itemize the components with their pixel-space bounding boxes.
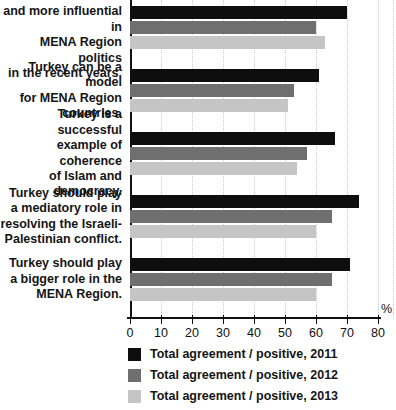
- bar-group-4: Turkey should play a mediatory role in r…: [0, 195, 396, 238]
- x-tick-10: [161, 315, 162, 324]
- x-tick-label-50: 50: [273, 326, 297, 340]
- bar-set-2: [130, 69, 396, 112]
- legend-item-2012: Total agreement / positive, 2012: [128, 368, 338, 382]
- x-tick-0: [130, 315, 131, 324]
- category-label-1: Turkey has become more and more influent…: [0, 6, 130, 49]
- legend-label-2012: Total agreement / positive, 2012: [150, 368, 338, 382]
- x-tick-50: [285, 315, 286, 324]
- legend-swatch-2012: [128, 369, 141, 382]
- legend-swatch-2013: [128, 390, 141, 403]
- bar-set-1: [130, 6, 396, 49]
- bar-group-1: Turkey has become more and more influent…: [0, 6, 396, 49]
- legend-swatch-2011: [128, 348, 141, 361]
- bar-group-3: Turkey is a successful example of cohere…: [0, 132, 396, 175]
- bar-group-5: Turkey should play a bigger role in the …: [0, 258, 396, 301]
- bar-2011-group-2: [130, 69, 319, 82]
- category-label-5: Turkey should play a bigger role in the …: [0, 258, 130, 301]
- bar-2013-group-2: [130, 99, 288, 112]
- bar-2012-group-4: [130, 210, 332, 223]
- bar-set-5: [130, 258, 396, 301]
- category-label-3: Turkey is a successful example of cohere…: [0, 132, 130, 175]
- legend-label-2013: Total agreement / positive, 2013: [150, 389, 338, 403]
- legend: Total agreement / positive, 2011Total ag…: [128, 347, 338, 410]
- bar-2011-group-3: [130, 132, 335, 145]
- x-tick-60: [316, 315, 317, 324]
- bar-2013-group-5: [130, 288, 316, 301]
- bar-2013-group-4: [130, 225, 316, 238]
- x-tick-40: [254, 315, 255, 324]
- category-label-2: Turkey can be a model for MENA Region co…: [0, 69, 130, 112]
- bar-2011-group-1: [130, 6, 347, 19]
- x-tick-label-80: 80: [366, 326, 390, 340]
- legend-label-2011: Total agreement / positive, 2011: [150, 347, 337, 361]
- bar-chart: Turkey has become more and more influent…: [0, 0, 396, 410]
- bar-2011-group-5: [130, 258, 350, 271]
- x-tick-70: [347, 315, 348, 324]
- x-tick-label-20: 20: [180, 326, 204, 340]
- bar-2012-group-5: [130, 273, 332, 286]
- bar-2011-group-4: [130, 195, 359, 208]
- bar-set-4: [130, 195, 396, 238]
- x-axis-unit-label: %: [381, 302, 392, 316]
- bar-2013-group-3: [130, 162, 297, 175]
- legend-item-2013: Total agreement / positive, 2013: [128, 389, 338, 403]
- x-tick-80: [378, 315, 379, 324]
- x-tick-label-30: 30: [211, 326, 235, 340]
- bar-group-2: Turkey can be a model for MENA Region co…: [0, 69, 396, 112]
- bar-2012-group-3: [130, 147, 307, 160]
- bar-2013-group-1: [130, 36, 325, 49]
- legend-item-2011: Total agreement / positive, 2011: [128, 347, 338, 361]
- x-tick-20: [192, 315, 193, 324]
- category-label-4: Turkey should play a mediatory role in r…: [0, 195, 130, 238]
- x-tick-label-0: 0: [118, 326, 142, 340]
- x-tick-30: [223, 315, 224, 324]
- bar-2012-group-1: [130, 21, 316, 34]
- x-tick-label-40: 40: [242, 326, 266, 340]
- x-tick-label-10: 10: [149, 326, 173, 340]
- bar-2012-group-2: [130, 84, 294, 97]
- x-tick-label-70: 70: [335, 326, 359, 340]
- x-tick-label-60: 60: [304, 326, 328, 340]
- bar-set-3: [130, 132, 396, 175]
- x-axis: 01020304050607080: [127, 317, 381, 319]
- bar-groups: Turkey has become more and more influent…: [0, 6, 396, 321]
